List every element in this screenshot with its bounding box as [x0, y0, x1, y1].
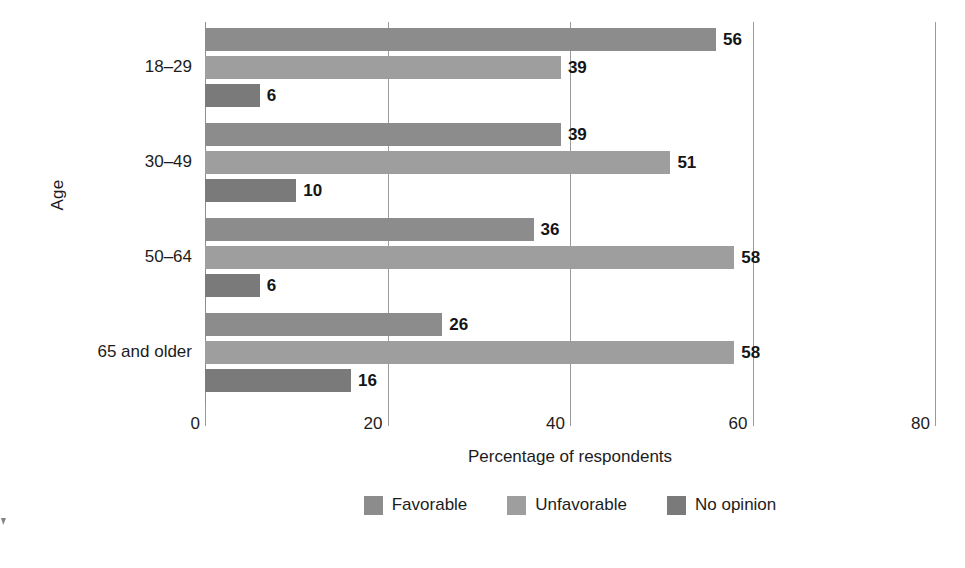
legend-swatch-icon — [667, 496, 686, 515]
legend-label: Favorable — [392, 495, 468, 515]
x-tick-mark-20 — [388, 404, 389, 426]
x-tick-label-80: 80 — [911, 414, 935, 434]
bar-row: 6 — [205, 274, 935, 297]
legend-item[interactable]: No opinion — [667, 495, 776, 515]
bar-value-label: 51 — [670, 152, 696, 172]
bar-value-label: 56 — [716, 29, 742, 49]
category-label: 65 and older — [2, 342, 192, 362]
legend-item[interactable]: Favorable — [364, 495, 468, 515]
bar-group: 56396 — [205, 28, 935, 112]
x-tick-label-0: 0 — [191, 414, 205, 434]
bar[interactable] — [205, 84, 260, 107]
bar-row: 51 — [205, 151, 935, 174]
bar[interactable] — [205, 246, 734, 269]
category-label: 30–49 — [2, 152, 192, 172]
bar-chart-figure: Age 18–2930–4950–6465 and older 56396395… — [0, 0, 965, 568]
x-tick-label-20: 20 — [364, 414, 388, 434]
legend-item[interactable]: Unfavorable — [507, 495, 627, 515]
x-tick-label-40: 40 — [546, 414, 570, 434]
bar-row: 39 — [205, 56, 935, 79]
bar-group: 265816 — [205, 313, 935, 397]
bar[interactable] — [205, 218, 534, 241]
bar-group: 36586 — [205, 218, 935, 302]
category-label: 18–29 — [2, 57, 192, 77]
legend-swatch-icon — [364, 496, 383, 515]
bar-row: 56 — [205, 28, 935, 51]
legend-label: Unfavorable — [535, 495, 627, 515]
bar[interactable] — [205, 28, 716, 51]
x-tick-mark-60 — [753, 404, 754, 426]
bar[interactable] — [205, 369, 351, 392]
x-tick-mark-40 — [570, 404, 571, 426]
chart-legend: FavorableUnfavorableNo opinion — [205, 495, 935, 515]
bar-row: 10 — [205, 179, 935, 202]
bar-row: 39 — [205, 123, 935, 146]
bar[interactable] — [205, 313, 442, 336]
bar-row: 58 — [205, 246, 935, 269]
bar-value-label: 39 — [561, 57, 587, 77]
category-axis-labels: 18–2930–4950–6465 and older — [0, 22, 192, 414]
bar[interactable] — [205, 151, 670, 174]
legend-swatch-icon — [507, 496, 526, 515]
bar[interactable] — [205, 56, 561, 79]
category-label: 50–64 — [2, 247, 192, 267]
legend-label: No opinion — [695, 495, 776, 515]
bar-group: 395110 — [205, 123, 935, 207]
bar-value-label: 10 — [296, 180, 322, 200]
bar[interactable] — [205, 274, 260, 297]
bar-row: 58 — [205, 341, 935, 364]
gridline-80 — [935, 22, 936, 414]
plot-area: 5639639511036586265816 — [205, 22, 935, 414]
bar-value-label: 6 — [260, 85, 276, 105]
scan-artifact-speck — [1, 518, 6, 525]
bar[interactable] — [205, 123, 561, 146]
bar[interactable] — [205, 179, 296, 202]
x-tick-mark-80 — [935, 404, 936, 426]
bar-value-label: 26 — [442, 314, 468, 334]
bar-value-label: 16 — [351, 370, 377, 390]
bar-row: 26 — [205, 313, 935, 336]
bar-value-label: 6 — [260, 275, 276, 295]
x-axis-title: Percentage of respondents — [205, 447, 935, 467]
bar-row: 6 — [205, 84, 935, 107]
bar-value-label: 58 — [734, 247, 760, 267]
bar-row: 16 — [205, 369, 935, 392]
x-tick-mark-0 — [205, 404, 206, 426]
x-axis-ticks: 020406080 — [205, 414, 965, 440]
bar-row: 36 — [205, 218, 935, 241]
x-tick-label-60: 60 — [729, 414, 753, 434]
bar-value-label: 58 — [734, 342, 760, 362]
bar[interactable] — [205, 341, 734, 364]
bar-value-label: 36 — [534, 219, 560, 239]
bar-value-label: 39 — [561, 124, 587, 144]
